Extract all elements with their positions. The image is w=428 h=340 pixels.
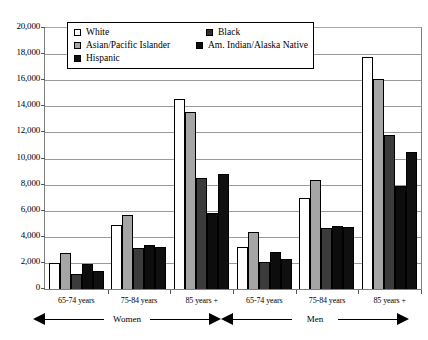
bar-group [358,28,421,289]
legend-item-white: White [74,27,206,38]
x-axis-category-label: 65-74 years [229,296,299,305]
y-axis-tick-label: 2,000 [0,257,40,266]
y-axis-tick-mark [41,131,45,132]
panel-group-men: Men [221,311,409,329]
y-axis-tick-label: 14,000 [0,100,40,109]
bar-asian [248,232,259,289]
y-axis-tick-label: 6,000 [0,205,40,214]
legend: WhiteBlackAsian/Pacific IslanderAm. Indi… [67,22,314,69]
x-axis-category-label: 85 years + [167,296,237,305]
bar-amind [207,213,218,289]
bar-hisp [343,227,354,289]
legend-label: Asian/Pacific Islander [86,40,170,51]
legend-swatch-asian [74,42,81,49]
bar-black [71,274,82,289]
bar-asian [185,112,196,290]
y-axis: 20,00018,00016,00014,00012,00010,0008,00… [0,0,40,340]
legend-label: Am. Indian/Alaska Native [208,40,308,51]
arrow-left-icon [33,313,45,325]
bar-white [299,198,310,289]
bar-hisp [281,259,292,289]
legend-label: Hispanic [86,53,120,64]
y-axis-tick-mark [41,27,45,28]
bar-white [174,99,185,290]
legend-item-asian: Asian/Pacific Islander [74,40,196,51]
legend-item-hisp: Hispanic [74,53,206,64]
y-axis-tick-label: 4,000 [0,231,40,240]
bar-hisp [406,152,417,289]
bar-amind [82,264,93,289]
bar-chart: 20,00018,00016,00014,00012,00010,0008,00… [0,0,428,340]
bar-asian [373,79,384,289]
y-axis-tick-mark [41,158,45,159]
legend-row: Asian/Pacific IslanderAm. Indian/Alaska … [74,39,308,52]
bar-amind [395,186,406,289]
y-axis-tick-label: 18,000 [0,48,40,57]
arrow-left-icon [221,313,233,325]
y-axis-tick-mark [41,236,45,237]
bar-amind [332,226,343,289]
y-axis-tick-label: 16,000 [0,74,40,83]
bar-white [49,263,60,289]
x-axis-category-label: 65-74 years [41,296,111,305]
bar-amind [144,245,155,289]
y-axis-tick-mark [41,105,45,106]
x-axis-tick [421,290,422,294]
bar-asian [310,180,321,289]
y-axis-tick-label: 10,000 [0,153,40,162]
bar-hisp [93,271,104,289]
x-axis-category-label: 75-84 years [104,296,174,305]
legend-label: White [86,27,109,38]
legend-swatch-hisp [74,55,81,62]
bar-white [237,247,248,289]
x-axis-tick [296,290,297,294]
legend-row: WhiteBlack [74,26,308,39]
y-axis-tick-mark [41,288,45,289]
bar-hisp [218,174,229,289]
y-axis-tick-label: 0 [0,283,40,292]
legend-label: Black [218,27,240,38]
x-axis-tick [108,290,109,294]
y-axis-tick-label: 12,000 [0,126,40,135]
panel-group-women: Women [33,311,221,329]
bar-black [384,135,395,289]
legend-row: Hispanic [74,52,308,65]
panel-group-label: Men [292,311,338,327]
bar-hisp [155,247,166,289]
legend-swatch-white [74,29,81,36]
x-axis-tick [358,290,359,294]
legend-swatch-black [206,29,213,36]
bar-black [133,248,144,289]
y-axis-tick-mark [41,210,45,211]
bar-black [259,262,270,289]
bar-white [362,57,373,289]
x-axis-tick [170,290,171,294]
bar-asian [60,253,71,290]
bar-amind [270,252,281,289]
y-axis-tick-label: 20,000 [0,22,40,31]
legend-item-black: Black [206,27,240,38]
arrow-right-icon [209,313,221,325]
legend-swatch-amind [196,42,203,49]
bar-black [196,178,207,289]
arrow-right-icon [397,313,409,325]
y-axis-tick-mark [41,262,45,263]
x-axis-category-label: 85 years + [355,296,425,305]
x-axis-category-label: 75-84 years [292,296,362,305]
y-axis-tick-mark [41,53,45,54]
panel-group-label: Women [104,311,150,327]
y-axis-tick-mark [41,184,45,185]
x-axis-tick [233,290,234,294]
bar-white [111,225,122,289]
bar-black [321,228,332,289]
legend-item-amind: Am. Indian/Alaska Native [196,40,308,51]
y-axis-tick-mark [41,79,45,80]
bar-asian [122,215,133,289]
y-axis-tick-label: 8,000 [0,179,40,188]
